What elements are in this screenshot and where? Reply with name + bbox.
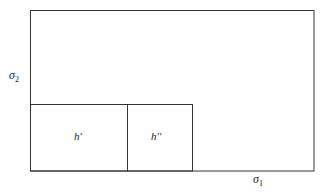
diagram-canvas: h′ h′′ σ2 σ1 bbox=[0, 0, 330, 194]
outer-rectangle bbox=[31, 11, 315, 172]
sigma-2-subscript: 2 bbox=[15, 75, 19, 84]
region-h-double-prime-label: h′′ bbox=[151, 130, 162, 142]
sigma-1-subscript: 1 bbox=[259, 179, 263, 188]
sigma-2-axis-label: σ2 bbox=[9, 68, 19, 84]
region-h-prime-label: h′ bbox=[74, 130, 83, 142]
sigma-1-axis-label: σ1 bbox=[253, 172, 263, 188]
